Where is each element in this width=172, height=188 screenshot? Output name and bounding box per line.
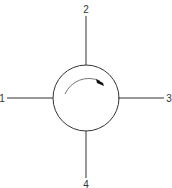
port-1-label: 1 xyxy=(0,93,5,104)
rotation-arrowhead-icon xyxy=(96,79,104,86)
rotation-arc xyxy=(65,78,100,94)
circulator-diagram: 2 4 1 3 xyxy=(0,0,172,188)
port-4-label: 4 xyxy=(83,179,89,188)
port-2-label: 2 xyxy=(83,4,89,15)
port-3-label: 3 xyxy=(166,93,172,104)
circulator-circle xyxy=(53,65,119,131)
